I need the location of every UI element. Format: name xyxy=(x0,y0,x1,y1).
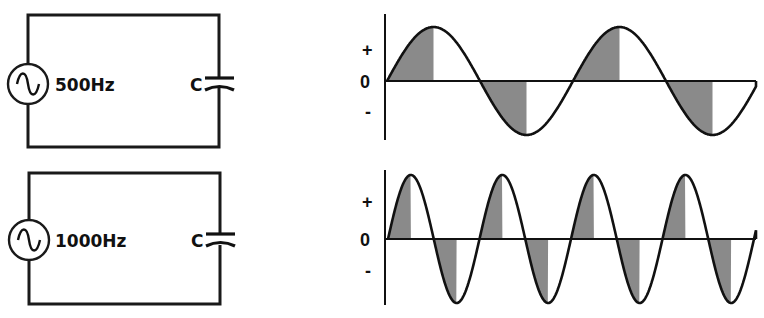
zero-label: 0 xyxy=(360,230,370,250)
shaded-area xyxy=(387,27,434,81)
source-frequency-label: 1000Hz xyxy=(55,231,127,251)
minus-label: - xyxy=(365,261,371,281)
capacitor-label: C xyxy=(190,75,202,95)
circuit-1000hz: 1000Hz C xyxy=(9,173,235,304)
plus-label: + xyxy=(362,192,373,212)
shaded-area xyxy=(666,81,713,135)
shaded-area xyxy=(573,27,620,81)
minus-label: - xyxy=(365,102,371,122)
source-frequency-label: 500Hz xyxy=(55,75,115,95)
waveform-graph-500hz: + 0 - xyxy=(360,14,756,140)
shaded-area xyxy=(480,81,527,135)
circuit-500hz: 500Hz C xyxy=(8,15,234,147)
waveform-graph-1000hz: + 0 - xyxy=(360,170,756,305)
capacitor-icon xyxy=(206,234,235,246)
plus-label: + xyxy=(362,40,373,60)
diagram-canvas: 500Hz C 1000Hz C + 0 - + 0 - xyxy=(0,0,764,318)
capacitor-label: C xyxy=(191,231,203,251)
zero-label: 0 xyxy=(360,72,370,92)
